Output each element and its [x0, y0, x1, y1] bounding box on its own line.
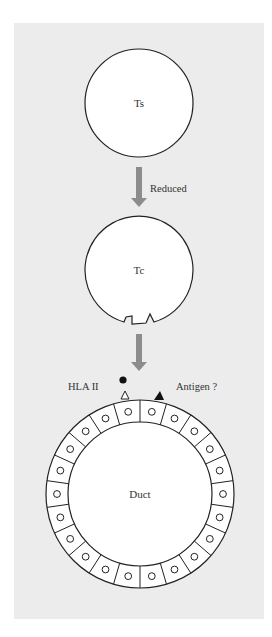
cell-nucleus: [102, 415, 109, 422]
duct: Duct: [46, 400, 234, 588]
tc-cell: Tc: [85, 216, 193, 324]
cell-nucleus: [57, 467, 64, 474]
cell-nucleus: [67, 446, 74, 453]
cell-nucleus: [171, 566, 178, 573]
cell-nucleus: [148, 408, 155, 415]
cell-nucleus: [67, 535, 74, 542]
dot-marker: [119, 376, 126, 383]
cell-nucleus: [206, 535, 213, 542]
arrow-shaft: [136, 334, 142, 363]
cell-nucleus: [102, 566, 109, 573]
cell-nucleus: [57, 514, 64, 521]
cell-nucleus: [54, 491, 61, 498]
cell-nucleus: [171, 415, 178, 422]
cell-nucleus: [216, 467, 223, 474]
ts-label: Ts: [134, 97, 144, 109]
antigen-label: Antigen ?: [176, 381, 217, 392]
duct-label: Duct: [129, 488, 150, 500]
ts-cell: Ts: [85, 49, 193, 157]
cell-nucleus: [206, 446, 213, 453]
cell-nucleus: [191, 428, 198, 435]
cell-nucleus: [82, 553, 89, 560]
cell-nucleus: [148, 573, 155, 580]
cell-nucleus: [191, 553, 198, 560]
cell-nucleus: [125, 408, 132, 415]
reduced-label: Reduced: [150, 183, 187, 194]
cell-nucleus: [125, 573, 132, 580]
diagram: Ts Reduced Tc HLA II Antigen ? Duct: [0, 0, 272, 637]
cell-nucleus: [220, 491, 227, 498]
cell-nucleus: [216, 514, 223, 521]
arrow-shaft: [136, 167, 142, 199]
cell-nucleus: [82, 428, 89, 435]
hla-ii-label: HLA II: [68, 381, 99, 392]
tc-label: Tc: [134, 264, 145, 276]
